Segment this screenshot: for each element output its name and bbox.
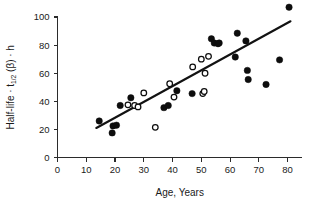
y-tick-label: 0 <box>44 152 49 163</box>
data-point-filled <box>244 67 250 73</box>
x-axis-title: Age, Years <box>156 187 204 198</box>
data-point-filled <box>232 54 238 60</box>
data-point-open <box>206 54 212 60</box>
data-point-open <box>199 56 205 62</box>
x-tick-label: 10 <box>81 164 92 175</box>
x-tick-label: 80 <box>282 164 293 175</box>
y-tick-label: 100 <box>34 11 50 22</box>
axis-titles-group: Age, YearsHalf-life · t1/2 (β) · h <box>5 45 204 198</box>
y-axis-title: Half-life · t1/2 (β) · h <box>5 45 17 129</box>
data-point-open <box>167 81 173 87</box>
data-point-filled <box>109 130 115 136</box>
data-point-filled <box>113 122 119 128</box>
data-points-group <box>96 4 292 136</box>
data-point-open <box>135 104 141 110</box>
x-tick-label: 50 <box>196 164 207 175</box>
data-point-filled <box>234 30 240 36</box>
data-point-open <box>202 70 208 76</box>
data-point-filled <box>263 81 269 87</box>
data-point-open <box>125 102 131 108</box>
x-tick-label: 40 <box>167 164 178 175</box>
data-point-open <box>190 64 196 70</box>
data-point-filled <box>286 4 292 10</box>
data-point-filled <box>128 95 134 101</box>
x-tick-label: 60 <box>225 164 236 175</box>
y-tick-label: 20 <box>39 124 50 135</box>
y-tick-label: 80 <box>39 40 50 51</box>
regression-line-group <box>96 21 290 128</box>
x-tick-label: 0 <box>55 164 60 175</box>
y-tick-label: 40 <box>39 96 50 107</box>
x-tick-label: 70 <box>254 164 265 175</box>
data-point-filled <box>174 88 180 94</box>
data-point-filled <box>245 76 251 82</box>
data-point-filled <box>216 40 222 46</box>
data-point-open <box>171 94 177 100</box>
data-point-open <box>141 90 147 96</box>
plot-canvas: 02040608010001020304050607080 Age, Years… <box>0 0 317 202</box>
data-point-filled <box>96 118 102 124</box>
x-tick-label: 30 <box>139 164 150 175</box>
data-point-open <box>153 125 159 131</box>
data-point-filled <box>189 90 195 96</box>
data-point-filled <box>165 102 171 108</box>
data-point-filled <box>117 102 123 108</box>
y-tick-label: 60 <box>39 68 50 79</box>
data-point-filled <box>276 57 282 63</box>
data-point-open <box>201 89 207 95</box>
regression-line <box>96 21 290 128</box>
x-tick-label: 20 <box>110 164 121 175</box>
data-point-filled <box>243 38 249 44</box>
scatter-plot-figure: 02040608010001020304050607080 Age, Years… <box>0 0 317 202</box>
